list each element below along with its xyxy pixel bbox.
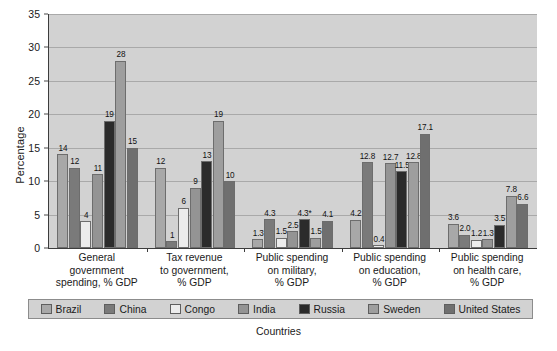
- bar-value-label: 1.3: [483, 229, 494, 238]
- bar-brazil: [57, 154, 68, 248]
- bar-united-states: [224, 181, 235, 248]
- x-axis-category-label: Public spending on education, % GDP: [333, 252, 447, 290]
- plot-area: 1412411192815121691319101.34.31.52.54.3*…: [48, 14, 537, 249]
- bar-brazil: [350, 220, 361, 248]
- bar-india: [385, 163, 396, 248]
- legend-item-label: United States: [459, 304, 521, 315]
- bar-value-label: 6.6: [517, 193, 528, 202]
- bar-china: [264, 219, 275, 248]
- bar-value-label: 10: [226, 171, 235, 180]
- bar-sweden: [310, 238, 321, 248]
- x-axis-category-label: Tax revenue to government, % GDP: [138, 252, 252, 290]
- bar-value-label: 4.3*: [297, 209, 311, 218]
- bar-value-label: 1.2: [471, 229, 482, 238]
- bar-value-label: 4.1: [322, 210, 333, 219]
- y-axis-tick-10: 10: [28, 175, 40, 187]
- bar-value-label: 28: [116, 50, 125, 59]
- bar-united-states: [517, 204, 528, 248]
- bar-value-label: 3.5: [494, 214, 505, 223]
- bar-value-label: 4.3: [264, 209, 275, 218]
- legend-item-brazil[interactable]: Brazil: [29, 304, 93, 315]
- bar-china: [166, 241, 177, 248]
- bar-sweden: [506, 196, 517, 248]
- bar-group: 3.62.01.21.33.57.86.6: [439, 14, 537, 248]
- bar-united-states: [127, 148, 138, 248]
- legend-item-china[interactable]: China: [93, 304, 158, 315]
- bar-india: [92, 174, 103, 248]
- y-axis-tick-20: 20: [28, 108, 40, 120]
- chart-legend: BrazilChinaCongoIndiaRussiaSwedenUnited …: [28, 299, 533, 319]
- bar-value-label: 14: [59, 144, 68, 153]
- legend-swatch-icon: [299, 304, 310, 314]
- bar-value-label: 2.0: [459, 224, 470, 233]
- y-axis-tick-30: 30: [28, 41, 40, 53]
- legend-item-label: China: [119, 304, 146, 315]
- bar-group: 1412411192815: [49, 14, 147, 248]
- y-axis-tick-5: 5: [34, 209, 40, 221]
- bar-china: [459, 235, 470, 248]
- bar-value-label: 19: [214, 110, 223, 119]
- bar-value-label: 19: [105, 110, 114, 119]
- legend-swatch-icon: [104, 304, 115, 314]
- bar-sweden: [213, 121, 224, 248]
- bar-sweden: [408, 162, 419, 248]
- bar-value-label: 4.2: [350, 209, 361, 218]
- legend-item-united-states[interactable]: United States: [432, 304, 532, 315]
- legend-swatch-icon: [41, 304, 52, 314]
- legend-item-russia[interactable]: Russia: [287, 304, 357, 315]
- bar-congo: [80, 221, 91, 248]
- y-axis-tick-25: 25: [28, 75, 40, 87]
- bar-united-states: [322, 221, 333, 248]
- bar-value-label: 3.6: [448, 213, 459, 222]
- legend-item-label: India: [253, 304, 275, 315]
- bar-united-states: [420, 134, 431, 248]
- bar-value-label: 7.8: [506, 185, 517, 194]
- bar-group: 1.34.31.52.54.3*1.54.1: [244, 14, 342, 248]
- legend-item-label: Russia: [314, 304, 345, 315]
- bar-chart: Percentage 05101520253035 14124111928151…: [0, 0, 557, 351]
- bar-china: [69, 168, 80, 248]
- bar-russia: [396, 171, 407, 248]
- bar-sweden: [115, 61, 126, 248]
- bar-india: [482, 239, 493, 248]
- bar-group: 12169131910: [147, 14, 245, 248]
- bar-congo: [471, 240, 482, 248]
- bar-value-label: 11: [94, 164, 102, 173]
- bar-value-label: 1.5: [276, 227, 287, 236]
- legend-item-label: Congo: [185, 304, 215, 315]
- y-axis-tick-35: 35: [28, 8, 40, 20]
- x-axis-category-labels: General government spending, % GDPTax re…: [48, 252, 536, 294]
- bar-india: [190, 188, 201, 248]
- legend-swatch-icon: [368, 304, 379, 314]
- legend-item-india[interactable]: India: [226, 304, 287, 315]
- bar-russia: [299, 219, 310, 248]
- y-axis-tick-15: 15: [28, 142, 40, 154]
- x-axis-category-label: Public spending on health care, % GDP: [430, 252, 544, 290]
- bar-congo: [178, 208, 189, 248]
- bar-india: [287, 231, 298, 248]
- bar-congo: [276, 238, 287, 248]
- bar-value-label: 6: [182, 197, 186, 206]
- x-axis-category-label: Public spending on military, % GDP: [235, 252, 349, 290]
- bar-brazil: [252, 239, 263, 248]
- bar-value-label: 1: [170, 231, 174, 240]
- bar-value-label: 12: [156, 157, 165, 166]
- x-axis-title: Countries: [0, 325, 557, 337]
- legend-swatch-icon: [444, 304, 455, 314]
- legend-item-congo[interactable]: Congo: [158, 304, 227, 315]
- bar-value-label: 12: [70, 157, 79, 166]
- legend-item-sweden[interactable]: Sweden: [357, 304, 432, 315]
- bar-value-label: 12.8: [360, 152, 376, 161]
- bar-brazil: [155, 168, 166, 248]
- bar-value-label: 13: [202, 151, 211, 160]
- bar-russia: [104, 121, 115, 248]
- legend-item-label: Sweden: [383, 304, 420, 315]
- bar-value-label: 0.4: [373, 235, 384, 244]
- x-axis-category-label: General government spending, % GDP: [40, 252, 154, 290]
- bar-china: [362, 162, 373, 248]
- legend-item-label: Brazil: [56, 304, 82, 315]
- bar-russia: [494, 225, 505, 248]
- bar-value-label: 9: [193, 177, 197, 186]
- bar-value-label: 15: [128, 137, 137, 146]
- legend-swatch-icon: [238, 304, 249, 314]
